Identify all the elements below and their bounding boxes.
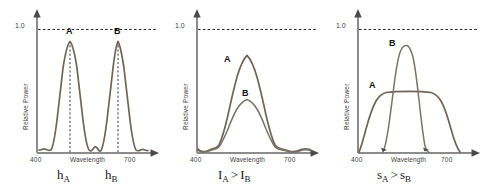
hue-panel: 1.0 Relative Power 400 Wavelength 700 A …	[0, 0, 161, 192]
x-tick-label-min: 400	[190, 156, 201, 163]
series-label-a: A	[66, 26, 73, 36]
spectrum-curve-a	[39, 42, 148, 152]
y-tick-label-1-0: 1.0	[175, 22, 185, 29]
caption-subscript: B	[112, 174, 118, 184]
x-axis-arrow-icon	[151, 149, 160, 156]
series-label-b: B	[114, 26, 121, 36]
spectrum-curve-b	[383, 45, 429, 152]
series-label-a: A	[224, 54, 231, 64]
x-tick-label-max: 700	[124, 156, 135, 163]
panel-caption-intensity: IA>IB	[218, 167, 251, 183]
caption-subscript-b: B	[405, 174, 411, 184]
series-label-a: A	[369, 80, 376, 90]
panel-caption-hue-a: hA	[57, 167, 70, 183]
y-axis-arrow-icon	[33, 9, 40, 18]
y-axis-title: Relative Power	[343, 83, 350, 130]
caption-operator: >	[229, 167, 240, 182]
caption-symbol: h	[57, 167, 64, 182]
spectrum-curve-a	[198, 56, 310, 152]
x-axis-title: Wavelength	[230, 156, 265, 163]
saturation-panel: 1.0 Relative Power 400 Wavelength 700 A …	[321, 0, 482, 192]
panel-caption-hue-b: hB	[105, 167, 118, 183]
y-tick-label-1-0: 1.0	[336, 22, 346, 29]
x-tick-label-max: 700	[284, 156, 295, 163]
panel-caption-saturation: sA>sB	[377, 167, 411, 183]
spectral-power-figure: 1.0 Relative Power 400 Wavelength 700 A …	[0, 0, 482, 192]
y-axis-title: Relative Power	[22, 83, 29, 130]
x-axis-arrow-icon	[311, 149, 320, 156]
x-tick-label-min: 400	[351, 156, 362, 163]
y-axis-arrow-icon	[193, 9, 200, 18]
caption-subscript-a: A	[382, 174, 389, 184]
y-axis-arrow-icon	[354, 9, 361, 18]
series-label-b: B	[389, 38, 396, 48]
x-axis-title: Wavelength	[391, 156, 426, 163]
y-axis-title: Relative Power	[182, 83, 189, 130]
caption-subscript: A	[64, 174, 71, 184]
x-axis-arrow-icon	[472, 149, 481, 156]
spectrum-curve-a	[359, 91, 460, 152]
x-tick-label-min: 400	[30, 156, 41, 163]
caption-operator: >	[389, 167, 400, 182]
caption-subscript-b: B	[245, 174, 251, 184]
caption-symbol: h	[105, 167, 112, 182]
x-tick-label-max: 700	[441, 156, 452, 163]
series-label-b: B	[242, 88, 249, 98]
intensity-panel: 1.0 Relative Power 400 Wavelength 700 A …	[160, 0, 321, 192]
spectrum-curve-b	[198, 100, 310, 153]
y-tick-label-1-0: 1.0	[15, 22, 25, 29]
caption-symbol-b: I	[240, 167, 244, 182]
x-axis-title: Wavelength	[70, 156, 105, 163]
caption-subscript-a: A	[222, 174, 229, 184]
